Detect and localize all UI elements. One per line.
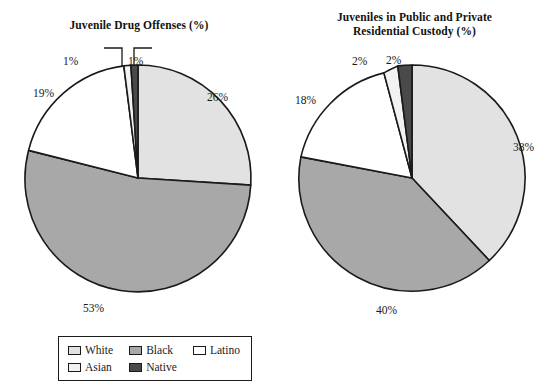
chart-title-drug-offenses: Juvenile Drug Offenses (%) xyxy=(0,18,278,32)
chart-panel-residential-custody: Juveniles in Public and Private Resident… xyxy=(278,0,551,389)
legend-swatch-black-icon xyxy=(129,346,142,355)
legend-label-native: Native xyxy=(146,360,177,374)
pie-label-white: 26% xyxy=(207,91,228,104)
pie-label-black: 40% xyxy=(376,304,397,317)
legend-item-white: White xyxy=(68,343,115,357)
legend-swatch-native-icon xyxy=(129,363,142,372)
legend-swatch-white-icon xyxy=(68,346,81,355)
pie-label-native: 2% xyxy=(386,54,401,67)
pie-label-latino: 19% xyxy=(33,87,54,100)
legend-label-asian: Asian xyxy=(85,360,112,374)
legend-label-latino: Latino xyxy=(210,343,240,357)
pie-label-native: 1% xyxy=(128,55,143,68)
legend-drug-offenses: White Black Latino Asian Native xyxy=(58,336,252,381)
legend-swatch-asian-icon xyxy=(68,363,81,372)
pie-chart-residential-custody xyxy=(296,62,528,294)
legend-item-asian: Asian xyxy=(68,360,115,374)
chart-title-residential-custody: Juveniles in Public and Private Resident… xyxy=(278,10,551,38)
pie-svg-residential-custody xyxy=(296,62,528,294)
legend-item-latino: Latino xyxy=(193,343,242,357)
pie-label-black: 53% xyxy=(83,302,104,315)
legend-swatch-latino-icon xyxy=(193,346,206,355)
chart-title-line-1: Juveniles in Public and Private xyxy=(278,10,551,24)
legend-item-black: Black xyxy=(129,343,179,357)
pie-label-white: 38% xyxy=(513,141,534,154)
pie-label-asian: 1% xyxy=(63,55,78,68)
pie-slice-white xyxy=(138,65,251,185)
chart-title-line-2: Residential Custody (%) xyxy=(278,24,551,38)
pie-label-latino: 18% xyxy=(295,94,316,107)
legend-label-black: Black xyxy=(146,343,173,357)
pie-label-asian: 2% xyxy=(352,55,367,68)
legend-item-native: Native xyxy=(129,360,179,374)
legend-label-white: White xyxy=(85,343,113,357)
chart-panel-drug-offenses: Juvenile Drug Offenses (%) 19% xyxy=(0,0,278,389)
